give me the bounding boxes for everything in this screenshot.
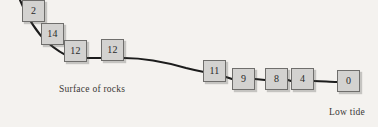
node-box: 12 — [101, 39, 124, 61]
node-box: 11 — [203, 60, 226, 82]
node-box: 8 — [265, 68, 288, 90]
node-box: 0 — [337, 70, 360, 92]
low-tide-label: Low tide — [329, 107, 365, 117]
node-box: 12 — [64, 40, 87, 62]
surface-of-rocks-label: Surface of rocks — [59, 84, 125, 94]
rock-profile-diagram: 2 14 12 12 11 9 8 4 0 Surface of rocks L… — [0, 0, 378, 127]
node-box: 9 — [232, 68, 255, 90]
rock-surface-profile-curve — [0, 0, 378, 127]
node-box: 14 — [41, 23, 64, 45]
node-box: 2 — [22, 0, 45, 22]
node-box: 4 — [291, 68, 314, 90]
